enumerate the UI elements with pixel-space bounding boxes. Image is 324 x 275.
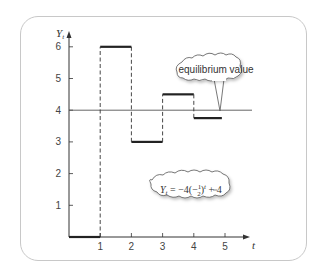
x-axis-label: t [252, 239, 256, 251]
y-tick-label: 1 [55, 200, 61, 211]
equilibrium-callout: equilibrium value [176, 53, 254, 111]
callout-pointer [214, 79, 224, 111]
callout-label: equilibrium value [178, 64, 253, 75]
callout-join [212, 77, 226, 81]
x-tick-label: 4 [191, 241, 197, 252]
x-tick-label: 1 [97, 241, 103, 252]
y-axis-label: Yt [56, 27, 65, 41]
y-tick-label: 3 [55, 136, 61, 147]
equation-callout: Yt = −4(−12)t + 4 [150, 170, 230, 198]
x-tick-label: 3 [160, 241, 166, 252]
x-tick-label: 2 [129, 241, 135, 252]
y-tick-label: 2 [55, 168, 61, 179]
y-tick-label: 5 [55, 73, 61, 84]
x-tick-label: 5 [222, 241, 228, 252]
x-axis-arrow [243, 235, 250, 240]
y-tick-label: 4 [55, 105, 61, 116]
y-axis-arrow [67, 31, 72, 38]
chart: 12345612345 equilibrium value Yt = −4(−1… [0, 0, 324, 275]
y-tick-label: 6 [55, 41, 61, 52]
